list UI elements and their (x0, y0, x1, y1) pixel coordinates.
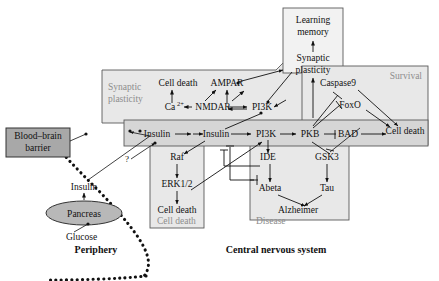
node-raf: Raf (170, 152, 185, 162)
blood-brain-barrier-label-line1: Blood–brain (14, 131, 62, 141)
synaptic-plasticity-panel-label-line1: Synaptic (108, 82, 141, 92)
node-learning-line1: Learning (296, 15, 331, 25)
figure-canvas: Blood–brain barrier Pancreas Glucose Ins… (0, 0, 439, 281)
node-synaptic-plasticity-line1: Synaptic (296, 53, 329, 63)
pancreas-label: Pancreas (67, 209, 101, 219)
node-tau: Tau (320, 183, 334, 193)
node-calcium: Ca (165, 102, 176, 112)
node-foxo: FoxO (339, 100, 361, 110)
node-alzheimer: Alzheimer (278, 205, 319, 215)
node-memory-line2: memory (297, 27, 329, 37)
glucose-label: Glucose (66, 232, 97, 242)
bbb-pointer-dot (84, 132, 87, 135)
ampar-link-dot (236, 81, 239, 84)
node-ide: IDE (260, 152, 276, 162)
node-insulin-band-left: Insulin (144, 129, 171, 139)
insulin-band-entry-dot (138, 129, 141, 132)
node-erk12: ERK1/2 (161, 179, 192, 189)
glucose-arrow-dot (86, 222, 89, 225)
node-gsk3: GSK3 (315, 152, 339, 162)
node-nmdar: NMDAR (195, 102, 231, 112)
insulin-crosses-bbb-line (88, 136, 150, 180)
diagram-svg: Blood–brain barrier Pancreas Glucose Ins… (0, 0, 439, 281)
node-cell-death-survival: Cell death (386, 126, 425, 136)
node-calcium-superscript: 2+ (177, 100, 184, 107)
bbb-pointer-line (70, 134, 86, 141)
node-pkb: PKB (301, 129, 319, 139)
node-abeta: Abeta (259, 183, 282, 193)
region-label-cns: Central nervous system (226, 244, 327, 255)
node-caspase9: Caspase9 (320, 78, 356, 88)
node-pi3k-top: PI3K (252, 102, 272, 112)
insulin-entry-dot (128, 129, 131, 132)
node-insulin-band-right: Insulin (203, 129, 230, 139)
region-label-periphery: Periphery (75, 244, 118, 255)
synaptic-plasticity-panel-label-line2: plasticity (108, 94, 143, 104)
pi3k-link-dot (266, 100, 269, 103)
node-cell-death-top: Cell death (159, 78, 198, 88)
cell-death-panel-label: Cell death (157, 216, 196, 226)
survival-panel-label: Survival (390, 71, 423, 81)
insulin-to-pi3ktop-dot (259, 111, 262, 114)
blood-brain-barrier-label-line2: barrier (25, 143, 51, 153)
node-synaptic-plasticity-line2: plasticity (296, 65, 331, 75)
node-pi3k-band: PI3K (256, 129, 276, 139)
question-arrow-dot (153, 141, 156, 144)
insulin-periphery-label: Insulin (71, 182, 98, 192)
node-cell-death-left: Cell death (158, 205, 197, 215)
question-mark-label: ? (125, 154, 129, 164)
disease-panel-label: Disease (256, 216, 286, 226)
